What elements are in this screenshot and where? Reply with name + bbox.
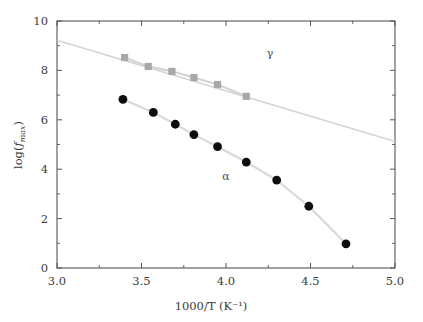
data-point-γ xyxy=(121,54,128,61)
data-point-α xyxy=(304,202,313,211)
data-point-γ xyxy=(190,74,197,81)
svg-text:4.5: 4.5 xyxy=(301,274,319,288)
svg-text:3.5: 3.5 xyxy=(132,274,150,288)
data-point-α xyxy=(213,142,222,151)
data-point-α xyxy=(189,130,198,139)
data-point-α xyxy=(119,95,128,104)
x-axis-title: 1000/T (K⁻¹) xyxy=(175,299,248,313)
svg-text:4: 4 xyxy=(41,162,48,176)
data-point-γ xyxy=(214,81,221,88)
data-point-γ xyxy=(145,63,152,70)
svg-text:6: 6 xyxy=(41,113,48,127)
data-point-γ xyxy=(243,93,250,100)
data-point-α xyxy=(149,108,158,117)
data-point-α xyxy=(242,158,251,167)
svg-text:5.0: 5.0 xyxy=(386,274,404,288)
figure-container: 3.03.54.04.55.0 0246810 γα 1000/T (K⁻¹) … xyxy=(0,0,423,322)
svg-text:3.0: 3.0 xyxy=(48,274,66,288)
svg-text:10: 10 xyxy=(33,14,48,28)
chart-svg: 3.03.54.04.55.0 0246810 γα 1000/T (K⁻¹) … xyxy=(0,0,423,322)
series-label-γ: γ xyxy=(267,47,274,60)
series-label-α: α xyxy=(222,170,230,183)
svg-text:8: 8 xyxy=(41,63,48,77)
data-point-γ xyxy=(168,68,175,75)
svg-text:4.0: 4.0 xyxy=(217,274,235,288)
data-point-α xyxy=(342,239,351,248)
svg-text:2: 2 xyxy=(41,212,48,226)
data-point-α xyxy=(272,176,281,185)
svg-text:0: 0 xyxy=(41,261,48,275)
data-point-α xyxy=(171,120,180,129)
